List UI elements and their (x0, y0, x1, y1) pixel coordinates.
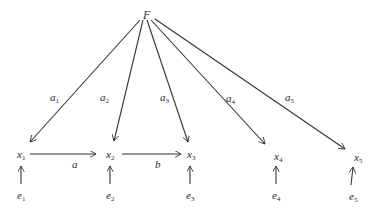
path-label-b: b (155, 158, 161, 170)
edge-f-x1 (30, 20, 140, 142)
var-x5: x5 (353, 151, 363, 165)
loading-labels: a1 a2 a3 a4 a5 (50, 91, 295, 106)
var-x1: x1 (16, 148, 26, 162)
edge-e5-x5 (351, 167, 353, 185)
path-diagram: F x1 x2 x3 x4 x5 e1 e2 e3 e4 e5 a1 a2 a3… (0, 0, 379, 214)
path-label-a: a (72, 158, 78, 170)
loading-a1: a1 (50, 91, 60, 105)
err-e4: e4 (272, 189, 281, 203)
edge-f-x2 (114, 20, 143, 141)
err-e5: e5 (349, 190, 358, 204)
loading-a5: a5 (285, 91, 295, 105)
loading-a3: a3 (160, 91, 170, 105)
variable-labels: x1 x2 x3 x4 x5 (16, 148, 363, 165)
error-labels: e1 e2 e3 e4 e5 (17, 189, 358, 204)
err-e1: e1 (17, 189, 26, 203)
loading-a2: a2 (100, 91, 110, 105)
loading-a4: a4 (226, 92, 236, 106)
err-e2: e2 (106, 189, 115, 203)
var-x2: x2 (105, 148, 115, 162)
err-e3: e3 (186, 189, 195, 203)
var-x4: x4 (273, 150, 283, 164)
factor-label: F (142, 8, 151, 22)
var-x3: x3 (186, 148, 196, 162)
